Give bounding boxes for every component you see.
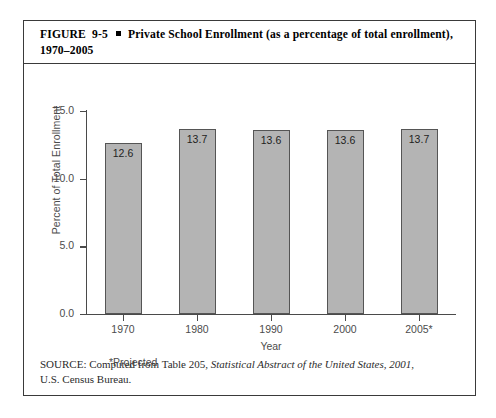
x-tick-label-1990: 1990 <box>236 323 306 335</box>
y-tick-5: 5.0 <box>80 246 87 247</box>
source-suffix: , <box>411 358 414 370</box>
source-line-2: U.S. Census Bureau. <box>40 373 131 385</box>
x-tick-label-1970: 1970 <box>88 323 158 335</box>
x-tick-2000 <box>345 314 346 321</box>
square-bullet-icon <box>116 31 121 36</box>
bar-1970: 12.6 <box>105 143 142 314</box>
bar-value-1970: 12.6 <box>106 147 141 159</box>
y-tick-label-10: 10.0 <box>54 172 74 184</box>
x-axis-title: Year <box>86 340 456 352</box>
x-tick-label-2005: 2005* <box>384 323 454 335</box>
source-prefix: SOURCE: Computed from Table 205, <box>40 358 208 370</box>
y-tick-label-5: 5.0 <box>59 239 74 251</box>
bar-2000: 13.6 <box>327 130 364 314</box>
bar-value-1980: 13.7 <box>180 133 215 145</box>
figure-caption-bar: FIGURE 9-5 Private School Enrollment (as… <box>24 21 475 64</box>
y-tick-15: 15.0 <box>80 111 87 112</box>
bar-1990: 13.6 <box>253 130 290 314</box>
y-tick-0: 0.0 <box>80 314 87 315</box>
x-tick-1970 <box>123 314 124 321</box>
bar-value-1990: 13.6 <box>254 134 289 146</box>
chart-plot-area: Percent of Total Enrollment 15.0 10.0 5.… <box>24 64 475 354</box>
figure-label: FIGURE <box>40 28 86 41</box>
y-tick-10: 10.0 <box>80 179 87 180</box>
source-note: SOURCE: Computed from Table 205, Statist… <box>40 357 460 386</box>
x-tick-label-2000: 2000 <box>310 323 380 335</box>
x-tick-1980 <box>197 314 198 321</box>
figure-number: 9-5 <box>92 28 108 41</box>
bar-1980: 13.7 <box>179 129 216 314</box>
bar-value-2000: 13.6 <box>328 134 363 146</box>
source-publication-title: Statistical Abstract of the United State… <box>211 358 412 370</box>
x-tick-2005 <box>419 314 420 321</box>
figure-frame: FIGURE 9-5 Private School Enrollment (as… <box>23 20 476 396</box>
x-tick-1990 <box>271 314 272 321</box>
page-title: FIGURE 9-5 Private School Enrollment (as… <box>40 27 459 58</box>
y-axis-line <box>86 110 87 315</box>
y-tick-label-0: 0.0 <box>59 307 74 319</box>
bar-value-2005: 13.7 <box>402 133 437 145</box>
bar-2005: 13.7 <box>401 129 438 314</box>
x-tick-label-1980: 1980 <box>162 323 232 335</box>
y-tick-label-15: 15.0 <box>54 104 74 116</box>
